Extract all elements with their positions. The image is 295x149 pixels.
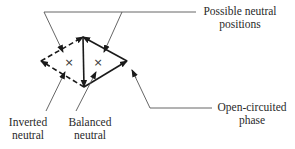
label-open-circuited-phase: Open-circuited phase [212,101,292,127]
phasor-vertical [83,37,84,87]
inverted-neutral-marker: × [64,56,73,69]
possible-neutral-leaders [44,12,196,52]
label-line-1: Inverted [4,116,52,129]
leader-to-inverted-neutral [44,12,63,52]
balanced-phasors [83,37,127,87]
leader-inverted-neutral [46,72,65,111]
leader-open-circuited-arrow [132,70,136,78]
label-line-1: Open-circuited [212,101,292,114]
label-line-1: Possible neutral [196,5,284,18]
dashed-phasor-bottom-left [41,61,84,87]
label-balanced-neutral: Balanced neutral [64,116,116,142]
leader-open-circuited-phase [132,70,212,108]
label-inverted-neutral: Inverted neutral [4,116,52,142]
dashed-phasor-left-top [41,37,83,61]
label-line-2: neutral [64,129,116,142]
label-line-2: phase [212,114,292,127]
leader-balanced-neutral [76,72,96,111]
label-possible-neutral-positions: Possible neutral positions [196,5,284,31]
label-line-2: positions [196,18,284,31]
phasor-right-top [83,37,127,61]
label-line-1: Balanced [64,116,116,129]
balanced-neutral-marker: × [93,56,102,69]
label-line-2: neutral [4,129,52,142]
bottom-leaders [46,70,212,111]
leader-to-balanced-neutral [104,12,122,52]
inverted-phasors [41,37,84,87]
